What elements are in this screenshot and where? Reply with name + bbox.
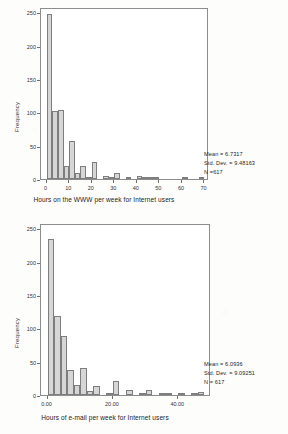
x-tick-mark	[181, 180, 182, 183]
y-tick-label: 50	[22, 144, 36, 150]
bar	[165, 393, 172, 395]
x-tick-mark	[203, 180, 204, 183]
x-tick-mark	[158, 180, 159, 183]
y-tick-label: 250	[22, 226, 36, 232]
y-tick-label: 250	[22, 10, 36, 16]
x-tick-label: 70	[200, 185, 206, 191]
bar	[154, 177, 160, 179]
y-tick-mark	[37, 80, 40, 81]
x-tick-label: 0	[44, 185, 47, 191]
mean-value: Mean = 6.0936	[204, 360, 255, 369]
scanned-page: Frequency 050100150200250 01020304050607…	[0, 0, 288, 434]
bar	[80, 368, 87, 395]
y-axis-label: Frequency	[14, 318, 20, 348]
y-tick-mark	[37, 229, 40, 230]
n-value: N =617	[204, 168, 255, 177]
bar-series	[41, 9, 207, 179]
x-tick-mark	[46, 180, 47, 183]
statistics-annotation: Mean = 6.0936 Std. Dev. = 9.09251 N = 61…	[204, 360, 255, 387]
bar	[146, 390, 153, 395]
x-tick-label: 40.00	[170, 401, 184, 407]
y-tick-mark	[37, 147, 40, 148]
y-tick-label: 50	[22, 360, 36, 366]
y-tick-label: 200	[22, 44, 36, 50]
bar	[106, 393, 113, 395]
x-tick-label: 30	[110, 185, 116, 191]
y-tick-mark	[37, 396, 40, 397]
x-tick-label: 40	[133, 185, 139, 191]
y-tick-mark	[37, 180, 40, 181]
plot-area	[40, 224, 210, 396]
histogram-www-hours: Frequency 050100150200250 01020304050607…	[0, 0, 288, 212]
x-tick-label: 20.00	[105, 401, 119, 407]
x-tick-label: 0.00	[41, 401, 52, 407]
std-dev-value: Std. Dev. = 9.09251	[204, 369, 255, 378]
mean-value: Mean = 6.7317	[204, 150, 255, 159]
y-tick-label: 100	[22, 326, 36, 332]
x-tick-mark	[177, 396, 178, 399]
x-tick-label: 50	[155, 185, 161, 191]
y-tick-label: 100	[22, 110, 36, 116]
x-axis-label: Hours on the WWW per week for Internet u…	[0, 196, 208, 203]
x-tick-mark	[47, 396, 48, 399]
bar	[199, 177, 205, 179]
x-tick-mark	[136, 180, 137, 183]
y-axis-label: Frequency	[14, 102, 20, 132]
x-tick-label: 20	[88, 185, 94, 191]
y-tick-label: 150	[22, 293, 36, 299]
bar	[113, 381, 120, 395]
x-tick-mark	[68, 180, 69, 183]
plot-area	[40, 8, 208, 180]
y-tick-mark	[37, 263, 40, 264]
bar	[139, 393, 146, 395]
y-tick-mark	[37, 363, 40, 364]
y-tick-mark	[37, 296, 40, 297]
bar	[178, 393, 185, 395]
y-tick-mark	[37, 113, 40, 114]
bar	[126, 177, 132, 179]
bar	[93, 386, 100, 395]
bar	[191, 393, 198, 395]
x-tick-mark	[91, 180, 92, 183]
y-tick-label: 200	[22, 260, 36, 266]
bar	[198, 392, 205, 395]
bar-series	[41, 225, 209, 395]
bar	[114, 173, 120, 179]
y-tick-label: 150	[22, 77, 36, 83]
bar	[54, 316, 61, 395]
n-value: N = 617	[204, 378, 255, 387]
y-tick-mark	[37, 13, 40, 14]
x-tick-mark	[112, 396, 113, 399]
x-axis-label: Hours of e-mail per week for Internet us…	[0, 414, 210, 421]
y-tick-mark	[37, 329, 40, 330]
bar	[92, 162, 98, 179]
statistics-annotation: Mean = 6.7317 Std. Dev. = 9.48163 N =617	[204, 150, 255, 177]
x-tick-label: 10	[65, 185, 71, 191]
std-dev-value: Std. Dev. = 9.48163	[204, 159, 255, 168]
bar	[126, 390, 133, 395]
x-tick-mark	[113, 180, 114, 183]
y-tick-label: 0	[22, 393, 36, 399]
bar	[67, 370, 74, 395]
x-tick-label: 60	[178, 185, 184, 191]
histogram-email-hours: Frequency 050100150200250 0.0020.0040.00…	[0, 212, 288, 434]
y-tick-mark	[37, 47, 40, 48]
bar	[182, 177, 188, 179]
y-tick-label: 0	[22, 177, 36, 183]
